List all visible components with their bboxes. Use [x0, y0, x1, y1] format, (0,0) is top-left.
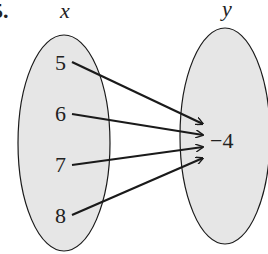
domain-value-8: 8	[55, 203, 66, 228]
domain-value-7: 7	[55, 152, 66, 177]
range-label: y	[220, 0, 232, 21]
range-value-neg4: −4	[210, 128, 233, 153]
domain-value-5: 5	[55, 50, 66, 75]
problem-number: 5.	[0, 0, 9, 23]
mapping-diagram: 5. x y 5 6 7 8 −4	[0, 0, 268, 254]
domain-label: x	[59, 0, 70, 23]
domain-value-6: 6	[55, 101, 66, 126]
